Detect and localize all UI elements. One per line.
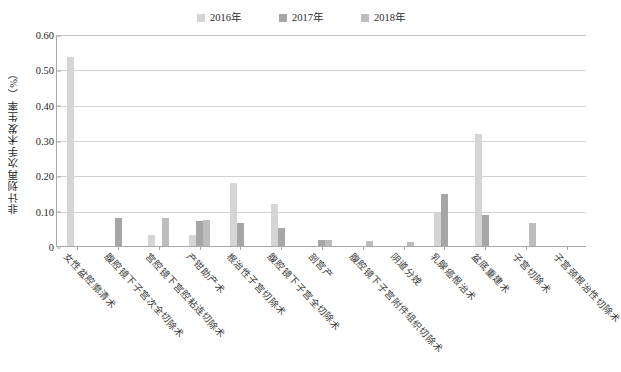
y-tick: 0.10 [36,206,57,217]
x-tick-mark [118,246,119,250]
legend-swatch-icon [361,14,369,22]
x-tick-mark [159,246,160,250]
legend-label: 2017年 [292,13,323,24]
y-tick: 0.20 [36,171,57,182]
bar-group [261,35,302,246]
x-tick-mark [567,246,568,250]
y-tick-label: 0.10 [36,206,57,217]
bar-2018年-腹腔镜下子宫附件组织切除术 [366,241,373,246]
y-tick-label: 0.30 [36,136,57,147]
bar-2018年-剖宫产 [325,240,332,246]
bar-group [465,35,506,246]
y-tick: 0 [49,242,57,253]
y-tick-label: 0.20 [36,171,57,182]
y-tick-label: 0.60 [36,30,57,41]
bar-2016年-女性盆腔廓清术 [67,57,74,246]
bar-2017年-腹腔镜下子宫次全切除术 [115,218,122,246]
bar-2016年-腹腔镜下子宫全切除术 [271,204,278,246]
y-tick: 0.40 [36,100,57,111]
bar-group [302,35,343,246]
bar-2016年-产钳助产术 [189,235,196,246]
bar-2017年-腹腔镜下子宫全切除术 [278,228,285,246]
legend-label: 2016年 [210,13,241,24]
x-tick-mark [526,246,527,250]
bar-2016年-乳腺癌根治术 [434,212,441,246]
x-axis-label: 宫腔镜下宫腔粘连切除术 [143,252,226,341]
x-tick-mark [240,246,241,250]
x-tick-mark [200,246,201,250]
bar-group [98,35,139,246]
x-axis-label: 产钳助产术 [184,252,226,296]
bar-group [220,35,261,246]
y-tick-label: 0 [49,242,57,253]
x-tick-mark [281,246,282,250]
bar-2018年-产钳助产术 [203,220,210,246]
y-tick-mark [57,247,61,248]
bar-group [342,35,383,246]
x-axis-label: 腹腔镜下子宫次全切除术 [102,252,185,341]
chart-legend: 2016年2017年2018年 [0,13,602,24]
legend-swatch-icon [197,14,205,22]
x-axis-label: 子宫颈根治性切除术 [551,252,621,326]
x-tick-mark [444,246,445,250]
legend-label: 2018年 [374,13,405,24]
bar-2017年-乳腺癌根治术 [441,194,448,246]
y-axis-title: 非计划再次手术发生率（%） [6,35,20,247]
bar-2016年-盆底重建术 [475,134,482,246]
bar-group [179,35,220,246]
x-tick-mark [404,246,405,250]
x-axis-label: 子宫切除术 [510,252,552,296]
y-axis-title-text: 非计划再次手术发生率（%） [6,67,21,214]
bar-group [546,35,587,246]
legend-item-2018年[interactable]: 2018年 [361,13,405,24]
y-tick-label: 0.40 [36,100,57,111]
bar-2018年-阴道分娩 [407,242,414,246]
bar-2018年-子宫切除术 [529,223,536,246]
bars-layer [57,35,586,246]
bar-group [139,35,180,246]
y-tick: 0.50 [36,65,57,76]
x-tick-mark [363,246,364,250]
x-axis-labels: 女性盆腔廓清术腹腔镜下子宫次全切除术宫腔镜下宫腔粘连切除术产钳助产术根治性子宫切… [56,252,586,370]
x-axis-label: 盆底重建术 [469,252,511,296]
x-tick-mark [77,246,78,250]
bar-2017年-根治性子宫切除术 [237,223,244,246]
bar-group [505,35,546,246]
bar-2018年-宫腔镜下宫腔粘连切除术 [162,218,169,246]
x-tick-mark [322,246,323,250]
bar-group [383,35,424,246]
y-tick: 0.60 [36,30,57,41]
x-axis-label: 阴道分娩 [388,252,423,288]
x-axis-label: 腹腔镜下子宫全切除术 [265,252,342,333]
bar-2017年-盆底重建术 [482,215,489,246]
x-tick-mark [485,246,486,250]
y-tick: 0.30 [36,136,57,147]
bar-2017年-产钳助产术 [196,221,203,246]
bar-group [57,35,98,246]
y-tick-label: 0.50 [36,65,57,76]
x-axis-label: 剖宫产 [306,252,334,281]
legend-item-2016年[interactable]: 2016年 [197,13,241,24]
bar-group [424,35,465,246]
legend-swatch-icon [279,14,287,22]
plot-area: 0.600.500.400.300.200.100 [56,35,586,247]
bar-2016年-根治性子宫切除术 [230,183,237,246]
legend-item-2017年[interactable]: 2017年 [279,13,323,24]
bar-2016年-宫腔镜下宫腔粘连切除术 [148,235,155,246]
